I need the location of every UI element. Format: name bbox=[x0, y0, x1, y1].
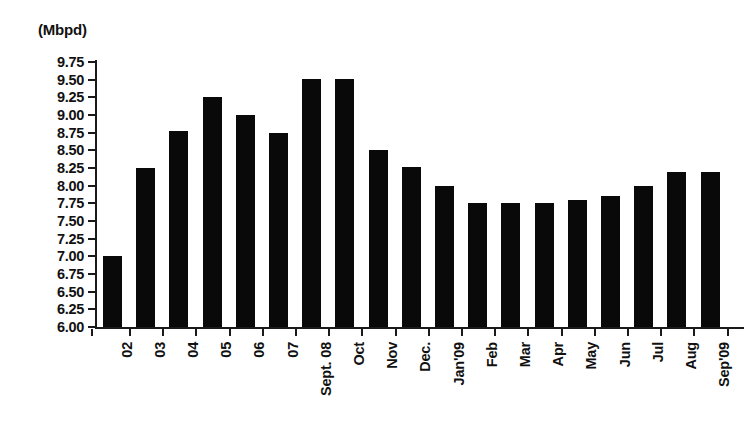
y-axis-tick-label: 6.50 bbox=[32, 285, 84, 300]
y-axis-tick-label: 8.50 bbox=[32, 143, 84, 158]
x-axis-tick bbox=[129, 329, 131, 336]
x-axis-tick bbox=[195, 329, 197, 336]
bar bbox=[701, 172, 720, 327]
y-axis-tick-label: 6.00 bbox=[32, 320, 84, 335]
y-axis-tick bbox=[88, 132, 96, 134]
x-axis-tick-label: Jun bbox=[617, 342, 633, 367]
y-axis-tick bbox=[88, 79, 96, 81]
bar bbox=[601, 196, 620, 327]
y-axis-tick bbox=[88, 202, 96, 204]
y-axis-tick-label-wrap: 7.25 bbox=[32, 239, 84, 240]
y-axis-tick-label-wrap: 8.00 bbox=[32, 186, 84, 187]
plot-area: 9.759.509.259.008.758.508.258.007.757.50… bbox=[0, 0, 750, 442]
y-axis-tick-label-wrap: 6.50 bbox=[32, 292, 84, 293]
y-axis-tick bbox=[88, 185, 96, 187]
bar bbox=[302, 79, 321, 327]
bar bbox=[501, 203, 520, 327]
y-axis-tick-label: 6.25 bbox=[32, 302, 84, 317]
y-axis-tick bbox=[88, 61, 96, 63]
y-axis-tick-label-wrap: 6.00 bbox=[32, 327, 84, 328]
y-axis-tick-label-wrap: 7.50 bbox=[32, 221, 84, 222]
y-axis-tick-label: 7.50 bbox=[32, 214, 84, 229]
y-axis-tick-label-wrap: 7.00 bbox=[32, 256, 84, 257]
x-axis-tick bbox=[494, 329, 496, 336]
x-axis-tick bbox=[91, 329, 93, 336]
y-axis-tick bbox=[88, 149, 96, 151]
y-axis-tick-label-wrap: 6.75 bbox=[32, 274, 84, 275]
y-axis-tick-label-wrap: 9.75 bbox=[32, 62, 84, 63]
x-axis-tick bbox=[660, 329, 662, 336]
x-axis-tick bbox=[162, 329, 164, 336]
x-axis-line bbox=[95, 327, 744, 329]
bar bbox=[634, 186, 653, 327]
bar bbox=[667, 172, 686, 327]
x-axis-tick-label: May bbox=[583, 342, 599, 370]
y-axis-tick-label: 7.00 bbox=[32, 249, 84, 264]
y-axis-tick-label: 8.00 bbox=[32, 179, 84, 194]
x-axis-tick-label: Sept. 08 bbox=[318, 342, 334, 396]
x-axis-tick-label: Nov bbox=[384, 342, 400, 369]
x-axis-tick-label: Oct bbox=[351, 342, 367, 366]
y-axis-tick-label-wrap: 9.25 bbox=[32, 97, 84, 98]
y-axis-tick-label: 9.50 bbox=[32, 73, 84, 88]
y-axis-tick bbox=[88, 167, 96, 169]
bar bbox=[435, 186, 454, 327]
y-axis-tick bbox=[88, 255, 96, 257]
y-axis-tick-label-wrap: 8.75 bbox=[32, 133, 84, 134]
x-axis-tick bbox=[395, 329, 397, 336]
y-axis-tick-label: 8.25 bbox=[32, 161, 84, 176]
x-axis-tick bbox=[561, 329, 563, 336]
x-axis-tick-label: Feb bbox=[484, 342, 500, 367]
x-axis-tick-label: 07 bbox=[285, 342, 301, 358]
bar bbox=[103, 256, 122, 327]
x-axis-tick bbox=[229, 329, 231, 336]
y-axis-tick-label-wrap: 9.00 bbox=[32, 115, 84, 116]
x-axis-tick bbox=[693, 329, 695, 336]
y-axis-tick bbox=[88, 238, 96, 240]
y-axis-tick-label-wrap: 8.50 bbox=[32, 150, 84, 151]
x-axis-tick bbox=[328, 329, 330, 336]
bar bbox=[568, 200, 587, 327]
bar bbox=[236, 115, 255, 327]
y-axis-tick-label-wrap: 8.25 bbox=[32, 168, 84, 169]
x-axis-tick bbox=[594, 329, 596, 336]
bar bbox=[269, 133, 288, 327]
y-axis-tick bbox=[88, 273, 96, 275]
y-axis-tick bbox=[88, 96, 96, 98]
y-axis-tick-label: 9.75 bbox=[32, 55, 84, 70]
y-axis-tick-label: 6.75 bbox=[32, 267, 84, 282]
y-axis-tick-label-wrap: 7.75 bbox=[32, 203, 84, 204]
x-axis-tick bbox=[428, 329, 430, 336]
x-axis-tick bbox=[527, 329, 529, 336]
bar bbox=[369, 150, 388, 327]
x-axis-tick-label: 03 bbox=[152, 342, 168, 358]
bar bbox=[535, 203, 554, 327]
y-axis-line bbox=[95, 60, 97, 329]
x-axis-tick-label: Jul bbox=[650, 342, 666, 362]
x-axis-tick-label: Jan'09 bbox=[451, 342, 467, 385]
y-axis-tick-label: 9.00 bbox=[32, 108, 84, 123]
y-axis-tick bbox=[88, 308, 96, 310]
x-axis-tick-label: 04 bbox=[185, 342, 201, 358]
bar bbox=[468, 203, 487, 327]
bar bbox=[203, 97, 222, 327]
x-axis-tick-label: Sep'09 bbox=[716, 342, 732, 387]
bar bbox=[335, 79, 354, 327]
x-axis-tick bbox=[295, 329, 297, 336]
x-axis-tick-label: 06 bbox=[251, 342, 267, 358]
x-axis-tick bbox=[262, 329, 264, 336]
x-axis-tick-label: Aug bbox=[683, 342, 699, 370]
x-axis-tick-label: Dec. bbox=[417, 342, 433, 372]
y-axis-tick bbox=[88, 220, 96, 222]
x-axis-tick bbox=[361, 329, 363, 336]
y-axis-tick-label: 8.75 bbox=[32, 126, 84, 141]
x-axis-tick bbox=[727, 329, 729, 336]
y-axis-tick bbox=[88, 326, 96, 328]
y-axis-tick-label-wrap: 9.50 bbox=[32, 80, 84, 81]
bar bbox=[136, 168, 155, 327]
bar-chart: (Mbpd) 9.759.509.259.008.758.508.258.007… bbox=[0, 0, 750, 442]
x-axis-tick-label: Mar bbox=[517, 342, 533, 367]
y-axis-tick-label: 7.75 bbox=[32, 196, 84, 211]
y-axis-tick-label-wrap: 6.25 bbox=[32, 309, 84, 310]
x-axis-tick bbox=[461, 329, 463, 336]
